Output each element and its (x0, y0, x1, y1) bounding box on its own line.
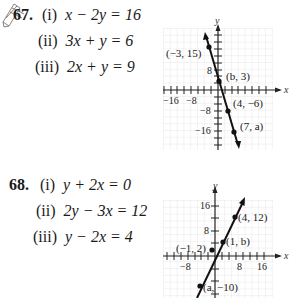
point-label: (1, b) (226, 235, 250, 248)
x-tick-label: 16 (257, 261, 267, 272)
y-tick-label: 8 (204, 225, 209, 236)
graph-68-labels: y x −8 8 16 16 8 (4, 12) (−1, 2) (1, b) … (0, 0, 300, 298)
point-label: (4, 12) (238, 211, 268, 224)
y-tick-label: 16 (200, 200, 210, 211)
x-axis-label: x (283, 250, 289, 261)
point-label: (a, −10) (203, 281, 238, 294)
point-label: (−1, 2) (176, 242, 206, 255)
y-axis-label: y (212, 180, 218, 191)
x-tick-label: −8 (180, 261, 191, 272)
x-tick-label: 8 (237, 261, 242, 272)
